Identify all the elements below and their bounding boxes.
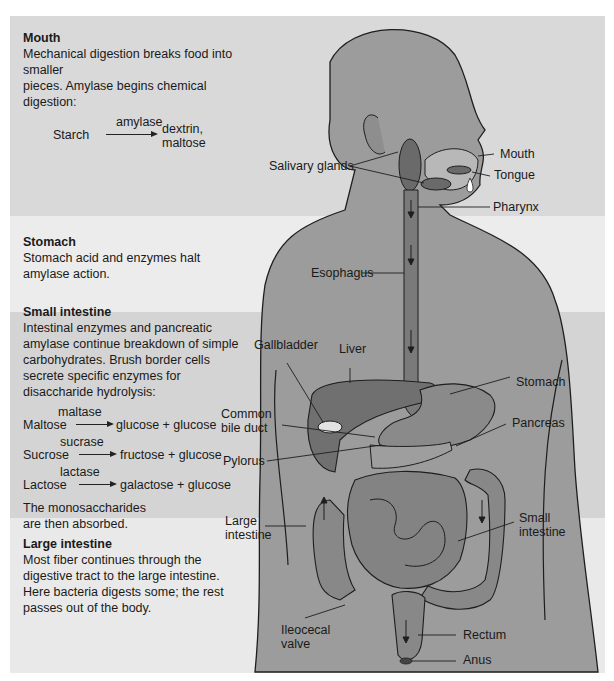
starch-reaction: Starch amylase dextrin, maltose [23,114,248,154]
label-line: Small [519,511,550,525]
label-ileocecal-valve: Ileocecalvalve [281,623,330,651]
small-intestine-footer-line2: are then absorbed. [23,516,248,532]
label-gallbladder: Gallbladder [254,338,318,353]
reaction-substrate: Starch [53,127,89,143]
reaction-enzyme: maltase [58,404,102,420]
large-intestine-text-line: Here bacteria digests some; the rest [23,584,248,600]
reaction-product: fructose + glucose [120,447,222,463]
mouth-panel: Mouth Mechanical digestion breaks food i… [23,30,248,154]
label-line: Ileocecal [281,623,330,637]
label-line: intestine [519,525,566,539]
small-intestine-footer-line1: The monosaccharides [23,500,248,516]
small-intestine-text-line: amylase continue breakdown of simple [23,336,248,352]
product-line2: maltose [162,136,206,150]
reaction-arrow-icon [76,424,112,425]
reaction-arrow-icon [79,484,115,485]
large-intestine-text-line: passes out of the body. [23,600,248,616]
parotid-gland [399,139,421,191]
label-line: valve [281,637,310,651]
label-large-intestine: Largeintestine [225,514,272,542]
reaction-enzyme: amylase [116,114,163,130]
sublingual-gland [447,166,471,174]
rectum-organ [392,592,425,660]
mouth-heading: Mouth [23,30,248,46]
label-rectum: Rectum [463,628,506,643]
small-intestine-text-line: Intestinal enzymes and pancreatic [23,320,248,336]
label-salivary-glands: Salivary glands [269,159,354,174]
sucrose-reaction: Sucrose sucrase fructose + glucose [23,434,248,464]
small-intestine-text-line: secrete specific enzymes for [23,368,248,384]
reaction-arrow-icon [79,454,115,455]
label-pylorus: Pylorus [223,454,265,469]
label-line: intestine [225,528,272,542]
small-intestine-panel-content: Small intestine Intestinal enzymes and p… [23,304,248,532]
reaction-product: dextrin, maltose [162,122,206,150]
lactose-reaction: Lactose lactase galactose + glucose [23,464,248,494]
mouth-text-line2: pieces. Amylase begins chemical digestio… [23,78,248,110]
large-intestine-text-line: Most fiber continues through the [23,552,248,568]
reaction-enzyme: sucrase [60,434,104,450]
large-intestine-text-line: digestive tract to the large intestine. [23,568,248,584]
product-line1: dextrin, [162,122,203,136]
stomach-text-line1: Stomach acid and enzymes halt [23,250,248,266]
label-pancreas: Pancreas [512,416,565,431]
small-intestine-text-line: disaccharide hydrolysis: [23,384,248,400]
submandibular-gland [421,178,451,190]
small-intestine-heading: Small intestine [23,304,248,320]
reaction-product: glucose + glucose [116,417,216,433]
stomach-heading: Stomach [23,234,248,250]
label-pharynx: Pharynx [493,200,539,215]
label-common-bile-duct: Commonbile duct [221,407,272,435]
reaction-product: galactose + glucose [120,477,231,493]
mouth-text-line1: Mechanical digestion breaks food into sm… [23,46,248,78]
label-small-intestine: Smallintestine [519,511,566,539]
label-stomach: Stomach [516,375,565,390]
label-tongue: Tongue [494,168,535,183]
label-line: bile duct [221,421,268,435]
label-esophagus: Esophagus [311,266,374,281]
label-anus: Anus [463,653,492,668]
label-line: Large [225,514,257,528]
label-mouth: Mouth [500,147,535,162]
maltose-reaction: Maltose maltase glucose + glucose [23,404,248,434]
small-intestine-text-line: carbohydrates. Brush border cells [23,352,248,368]
label-liver: Liver [339,342,366,357]
reaction-enzyme: lactase [60,464,100,480]
label-line: Common [221,407,272,421]
anus [400,658,412,664]
large-intestine-heading: Large intestine [23,536,248,552]
large-intestine-panel: Large intestine Most fiber continues thr… [23,536,248,616]
stomach-panel: Stomach Stomach acid and enzymes halt am… [23,234,248,282]
reaction-arrow-icon [106,134,156,135]
stomach-text-line2: amylase action. [23,266,248,282]
